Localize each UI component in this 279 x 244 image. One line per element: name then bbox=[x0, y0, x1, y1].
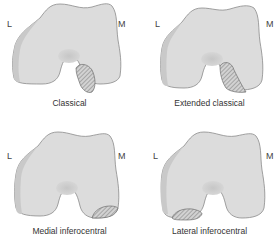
caption: Lateral inferocentral bbox=[140, 226, 279, 236]
caption: Extended classical bbox=[140, 98, 279, 108]
panel-lateral-inferocentral: L M Lateral inferocentral bbox=[140, 122, 279, 244]
lateral-label: L bbox=[7, 19, 12, 29]
caption: Classical bbox=[0, 98, 139, 108]
panel-classical: L M Classical bbox=[0, 0, 139, 122]
medial-label: M bbox=[118, 19, 126, 29]
lateral-label: L bbox=[153, 151, 158, 161]
panel-extended-classical: L M Extended classical bbox=[140, 0, 279, 122]
lateral-label: L bbox=[7, 151, 12, 161]
medial-label: M bbox=[266, 19, 274, 29]
caption: Medial inferocentral bbox=[0, 226, 139, 236]
panel-medial-inferocentral: L M Medial inferocentral bbox=[0, 122, 139, 244]
medial-label: M bbox=[118, 151, 126, 161]
lateral-label: L bbox=[155, 19, 160, 29]
medial-label: M bbox=[266, 151, 274, 161]
